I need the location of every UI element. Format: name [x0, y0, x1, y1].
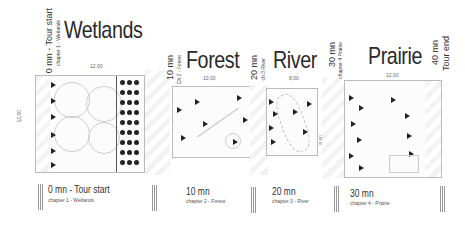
- forest-width-dim: 10,00: [203, 75, 216, 81]
- wetlands-start-sub: chapter 1 - Wetlands: [55, 20, 61, 66]
- wetlands-start-time: 0 mn - Tour start: [44, 8, 54, 73]
- chapter-title-forest: Forest: [186, 46, 239, 74]
- transition-3-legend: [334, 186, 340, 212]
- wetlands-plan: [35, 75, 145, 173]
- forest-caption-time: 10 mn: [186, 186, 210, 197]
- wetlands-height-dim: 12,00: [16, 110, 22, 123]
- river-width-dim: 8,00: [289, 75, 299, 81]
- forest-start-time: 10 mn: [165, 55, 175, 80]
- river-plan: [266, 88, 318, 156]
- chapter-title-prairie: Prairie: [368, 42, 422, 70]
- tour-end-label: Tour end: [441, 36, 451, 71]
- transition-2-legend: [251, 187, 257, 213]
- prairie-start-sub: chapter 4 Prairie: [337, 42, 343, 79]
- river-caption-time: 20 mn: [272, 186, 296, 197]
- transition-1: [145, 70, 170, 175]
- wetlands-legend-lines: [38, 184, 44, 210]
- tour-end-time: 40 mn: [430, 40, 440, 65]
- prairie-width-dim: 12,00: [386, 72, 399, 78]
- chapter-title-river: River: [273, 46, 317, 74]
- wetlands-width-dim: 12,00: [90, 63, 103, 69]
- wetlands-caption-sub: chapter 1 - Wetlands: [48, 197, 94, 203]
- transition-3: [322, 78, 344, 178]
- prairie-plan: [344, 80, 442, 178]
- forest-plan: [172, 86, 252, 158]
- prairie-caption-time: 30 mn: [350, 188, 374, 199]
- chapter-title-wetlands: Wetlands: [64, 16, 142, 44]
- river-start-time: 20 mn: [249, 55, 259, 80]
- transition-1-legend: [152, 185, 158, 211]
- wetlands-caption-time: 0 mn - Tour start: [48, 184, 110, 195]
- river-start-sub: ch 3 River: [260, 58, 266, 81]
- forest-start-sub: Ch 2 - Forest: [176, 55, 182, 84]
- prairie-caption-sub: chapter 4 - Prairie: [350, 200, 390, 206]
- forest-caption-sub: chapter 2 - Forest: [186, 198, 225, 204]
- tour-end-legend: [440, 186, 446, 212]
- river-caption-sub: chapter 3 - River: [272, 198, 309, 204]
- prairie-start-time: 30 mn: [327, 42, 337, 67]
